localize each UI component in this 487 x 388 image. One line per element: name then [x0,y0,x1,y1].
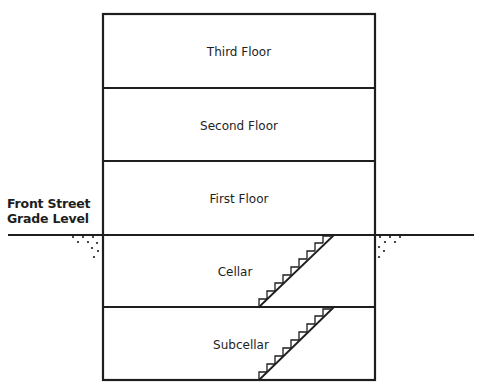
grade-level-label-line1: Front Street [7,196,90,211]
subcellar-label: Subcellar [213,338,269,352]
first-floor-label: First Floor [210,192,269,206]
subcellar-stairs-icon [259,307,334,380]
second-floor-label: Second Floor [200,119,278,133]
cellar-label: Cellar [218,265,253,279]
grade-level-label-line2: Grade Level [7,211,90,226]
soil-dots-right [378,236,401,258]
grade-level-label: Front Street Grade Level [7,196,90,226]
third-floor-label: Third Floor [207,45,271,59]
soil-dots-left [72,236,99,258]
cellar-stairs-icon [259,235,334,307]
